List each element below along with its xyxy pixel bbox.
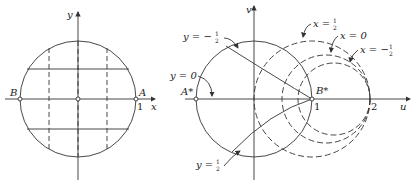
frac-num: 1 [389,43,393,50]
frac-num: 1 [215,30,219,37]
frac-den: 2 [216,165,220,172]
y-axis-label: y [66,9,73,20]
tick-1-label: 1 [314,101,320,112]
v-axis-label: v [246,4,252,15]
point-a-star-label: A* [180,86,193,97]
frac-den: 2 [333,24,337,31]
leader-y-pos-half [224,151,240,166]
tick-2-label: 2 [371,101,377,112]
x-axis-label: x [151,101,157,112]
frac-num: 1 [333,17,337,24]
label-x-zero: x = 0 [340,30,367,41]
label-y-neg-half: y = − [182,31,212,42]
curve-y-neg-half [226,46,312,99]
frac-num: 1 [216,158,220,165]
diagram-canvas: y x B A 1 v u A* B* 1 2 y = − 1 2 y = 0 … [0,0,414,187]
label-y-zero: y = 0 [169,70,197,81]
tick-1-label: 1 [137,101,143,112]
left-diagram [5,12,155,180]
point-b [18,97,22,101]
frac-den: 2 [389,50,393,57]
leader-y-zero [198,76,212,96]
frac-den: 2 [215,37,219,44]
u-axis-label: u [400,101,406,112]
point-a-label: A [138,87,146,98]
label-x-neg-half: x = − [360,44,389,55]
label-x-pos-half: x = [313,18,330,29]
leader-x-pos-half [303,24,311,37]
point-b-star-label: B* [315,85,328,96]
label-y-pos-half: y = [195,159,213,170]
curve-y-pos-half [232,99,312,152]
point-origin [76,97,80,101]
point-b-label: B [9,87,17,98]
point-a-star [194,97,198,101]
leader-x-zero [331,36,338,52]
